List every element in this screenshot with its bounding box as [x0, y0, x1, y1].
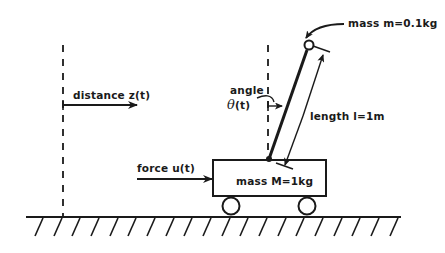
force-label: force u(t): [137, 163, 195, 174]
pendulum-mass-label: mass m=0.1kg: [348, 18, 437, 29]
wheel-left: [223, 198, 240, 215]
pendulum-mass: [305, 41, 314, 50]
distance-label: distance z(t): [73, 90, 150, 101]
mass-pointer-arrow: [306, 24, 344, 38]
pendulum-pivot: [266, 156, 272, 162]
distance-arrow: [63, 100, 137, 110]
ground: [26, 217, 401, 236]
cart-mass-label: mass M=1kg: [236, 176, 313, 187]
angle-label: angle: [230, 85, 264, 96]
length-label: length l=1m: [310, 111, 385, 122]
angle-indicator: [257, 96, 282, 111]
wheel-right: [299, 198, 316, 215]
inverted-pendulum-diagram: [0, 0, 445, 253]
theta-argument: (t): [235, 99, 250, 111]
pendulum-rod: [269, 50, 307, 159]
ground-hatching: [35, 218, 398, 236]
theta-symbol: θ: [227, 97, 235, 112]
angle-symbol-label: θ(t): [227, 98, 250, 111]
